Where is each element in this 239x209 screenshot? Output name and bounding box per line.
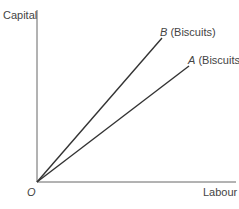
ray-a-biscuits (37, 66, 189, 182)
line-b-letter: B (160, 26, 167, 38)
x-axis-label: Labour (203, 186, 237, 198)
line-a-product: (Biscuits) (198, 54, 239, 66)
capital-label: Capital (3, 9, 37, 21)
line-b-label: B (Biscuits) (160, 26, 216, 38)
line-a-letter: A (188, 54, 195, 66)
y-axis-label: Capital (3, 9, 37, 21)
origin-label: O (27, 186, 36, 198)
line-a-label: A (Biscuits) (188, 54, 239, 66)
line-b-product: (Biscuits) (170, 26, 215, 38)
ray-b-biscuits (37, 38, 162, 182)
